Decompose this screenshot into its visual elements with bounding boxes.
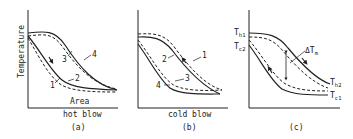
curve-label-1: 1 [50,81,55,90]
leader-2 [68,79,74,81]
y-axis-label: Temperature [17,25,26,78]
x-axis-label: Area [70,97,89,106]
panel-a: 1 2 3 4 Area hot blow (a) Temperature [17,10,118,132]
panel-b-subtitle: cold blow [168,110,212,119]
label-tc1: Tc1 [330,91,341,101]
label-th1: Th1 [234,28,245,38]
panel-c-hot-upper [249,33,330,84]
panel-a-curve-1 [28,38,117,92]
panel-a-caption: (a) [71,123,85,132]
regenerator-temperature-diagram: 1 2 3 4 Area hot blow (a) Temperature 1 … [0,0,353,139]
panel-b-curve-2 [138,37,220,94]
panel-c-cold-dashed [249,40,328,91]
curve-label-1: 1 [202,51,207,60]
panel-a-axes [28,10,118,108]
label-delta-tm: ΔTm [305,46,319,56]
curve-label-4: 4 [156,81,161,90]
label-tc2: Tc2 [234,42,245,52]
panel-c: Th1 Tc2 ΔTm Th2 Tc1 (c) [234,10,341,132]
panel-b-curve-3 [138,40,222,90]
leader-3 [175,79,184,81]
panel-a-curve-3 [28,35,117,89]
label-th2: Th2 [330,78,341,88]
curve-label-4: 4 [92,50,97,59]
panel-b: 1 2 3 4 cold blow (b) [138,10,228,132]
leader-2 [168,55,174,58]
panel-c-hot-arrow [302,58,306,63]
panel-a-subtitle: hot blow [63,110,102,119]
curve-label-3: 3 [62,55,67,64]
curve-label-2: 2 [75,74,80,83]
leader-4 [84,55,91,60]
curve-label-2: 2 [162,55,167,64]
panel-b-caption: (b) [182,123,196,132]
panel-a-flow-arrow [49,57,52,62]
curve-label-3: 3 [185,74,190,83]
panel-c-caption: (c) [289,123,303,132]
panel-a-curve-2 [28,36,117,90]
leader-1 [193,57,201,61]
